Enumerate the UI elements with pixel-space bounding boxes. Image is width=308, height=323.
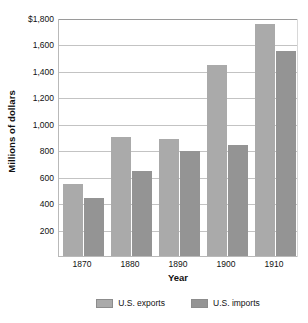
legend-item: U.S. exports [96,298,165,308]
legend-label: U.S. imports [213,298,260,308]
bar [132,171,152,257]
bar [159,139,179,257]
legend-swatch [96,299,113,308]
y-axis-tick-label: 600 [40,173,54,183]
bar [276,51,296,257]
y-axis-tick-label: 1,600 [33,40,54,50]
bar [84,198,104,258]
bar [228,145,248,257]
y-axis-tick-labels: $1,8001,6001,4001,2001,000800600400200 [14,19,57,257]
bar [255,24,275,257]
y-axis-tick-label: 800 [40,146,54,156]
y-axis-tick-label: 1,000 [33,120,54,130]
legend-item: U.S. imports [191,298,260,308]
x-axis-tick-label: 1870 [73,259,92,269]
x-axis-tick-label: 1880 [121,259,140,269]
bar-group [207,19,248,257]
x-axis-tick-label: 1910 [265,259,284,269]
y-axis-tick-label: 1,400 [33,67,54,77]
bar-group [63,19,104,257]
y-axis-tick-label: 200 [40,226,54,236]
y-axis-tick-label: 1,200 [33,93,54,103]
bar-group [255,19,296,257]
y-axis-tick-label: $1,800 [28,14,54,24]
bar [111,137,131,257]
x-axis-tick-label: 1900 [217,259,236,269]
bar [180,151,200,257]
bar-group [159,19,200,257]
x-axis-tick-labels: 18701880189019001910 [58,259,298,273]
bar [63,184,83,257]
legend-label: U.S. exports [118,298,165,308]
bars-layer [59,19,297,257]
chart-legend: U.S. exportsU.S. imports [58,298,298,308]
x-axis-tick-label: 1890 [169,259,188,269]
bar-group [111,19,152,257]
axis-baseline [59,256,297,257]
bar-chart: Millions of dollars $1,8001,6001,4001,20… [0,0,308,323]
legend-swatch [191,299,208,308]
x-axis-title: Year [58,272,298,283]
plot-area [58,19,298,257]
y-axis-tick-label: 400 [40,199,54,209]
bar [207,65,227,257]
